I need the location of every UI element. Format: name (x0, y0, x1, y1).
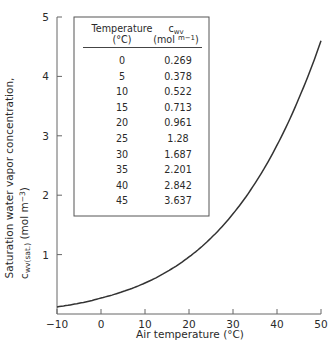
y-tick-label: 5 (42, 11, 49, 23)
table-cell-temperature: 20 (116, 117, 128, 128)
table-cell-temperature: 45 (116, 195, 128, 206)
table-header-temperature-unit: (°C) (113, 34, 132, 45)
table-cell-temperature: 0 (119, 55, 125, 66)
table-cell-cwv: 2.201 (164, 164, 191, 175)
table-cell-cwv: 0.522 (164, 86, 191, 97)
x-axis-title: Air temperature (°C) (136, 328, 244, 340)
chart: −100102030405012345 Temperature (°C) cwv… (0, 0, 333, 354)
table-cell-temperature: 10 (116, 86, 128, 97)
x-tick-label: 40 (270, 318, 283, 330)
table-cell-cwv: 0.961 (164, 117, 191, 128)
y-tick-label: 4 (42, 70, 49, 82)
table-cell-temperature: 15 (116, 102, 128, 113)
table-cell-temperature: 25 (116, 133, 128, 144)
x-tick-label: −10 (46, 318, 68, 330)
y-tick-label: 1 (42, 249, 49, 261)
y-tick-label: 2 (42, 189, 49, 201)
table-cell-cwv: 0.713 (164, 102, 191, 113)
table-cell-cwv: 0.269 (164, 55, 191, 66)
table-cell-temperature: 30 (116, 149, 128, 160)
table-cell-cwv: 1.28 (167, 133, 188, 144)
y-axis-title-line1: Saturation water vapor concentration, (3, 78, 15, 279)
y-axis-title-line2: cwv(sat.) (mol m−3) (18, 187, 32, 279)
table-cell-cwv: 1.687 (164, 149, 191, 160)
table-header-temperature: Temperature (91, 23, 153, 34)
table-cell-temperature: 40 (116, 180, 128, 191)
table-cell-temperature: 35 (116, 164, 128, 175)
y-tick-label: 3 (42, 130, 49, 142)
table-cell-cwv: 3.637 (164, 195, 191, 206)
x-tick-label: 50 (314, 318, 327, 330)
table-cell-cwv: 0.378 (164, 71, 191, 82)
table-cell-cwv: 2.842 (164, 180, 191, 191)
inset-table: Temperature (°C) cwv (mol m−1) 00.26950.… (74, 17, 209, 216)
x-tick-label: 0 (98, 318, 105, 330)
table-cell-temperature: 5 (119, 71, 125, 82)
